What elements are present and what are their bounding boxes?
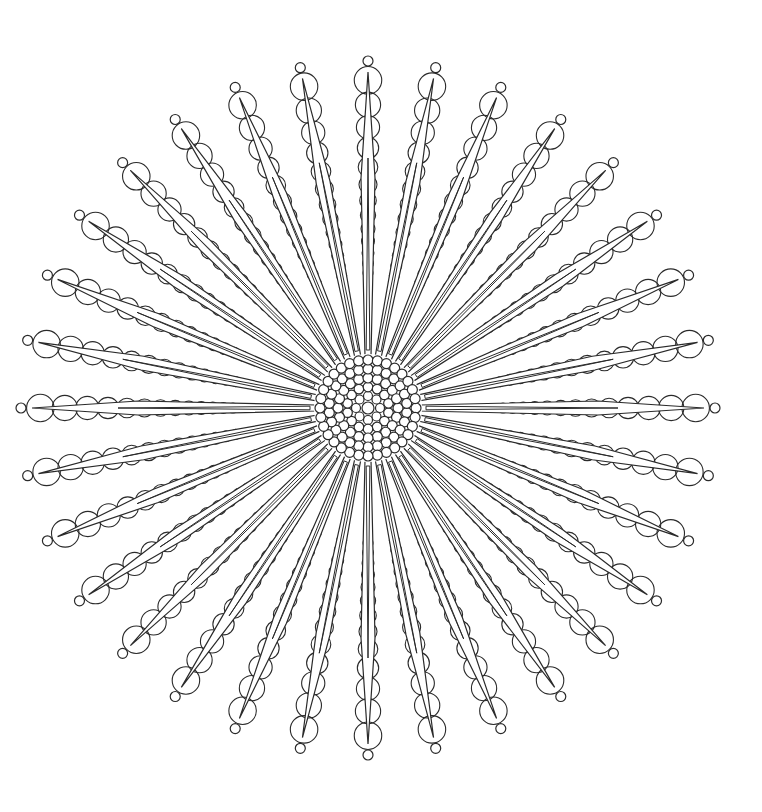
core-circle <box>352 404 361 413</box>
tip-circle <box>710 403 720 413</box>
core-circle <box>376 404 385 413</box>
core-circle <box>363 424 373 434</box>
tip-circle <box>496 82 506 92</box>
core-circle <box>364 416 373 425</box>
tip-circle <box>170 114 180 124</box>
tip-circle <box>118 158 128 168</box>
core-circle <box>372 441 382 451</box>
ray-spike <box>123 418 312 457</box>
tip-circle <box>42 536 52 546</box>
core-circle <box>354 374 364 384</box>
ray <box>420 394 720 421</box>
core-circle <box>363 382 373 392</box>
ray-spike <box>319 465 358 654</box>
ray <box>354 56 381 356</box>
tip-circle <box>23 471 33 481</box>
tip-circle <box>42 270 52 280</box>
core-circle <box>363 451 373 461</box>
core-circle <box>354 365 364 375</box>
ray-spike <box>319 163 358 352</box>
tip-circle <box>684 270 694 280</box>
core-circle <box>316 412 326 422</box>
ray-spike <box>425 359 614 398</box>
mandala-artwork <box>0 0 762 812</box>
tip-circle <box>230 724 240 734</box>
tip-circle <box>363 56 373 66</box>
tip-circle <box>23 335 33 345</box>
tip-circle <box>118 648 128 658</box>
tip-circle <box>556 114 566 124</box>
ray-spike <box>378 163 417 352</box>
tip-circle <box>170 692 180 702</box>
tip-circle <box>608 158 618 168</box>
core-circle <box>372 432 382 442</box>
mandala-core <box>314 354 422 462</box>
tip-circle <box>74 210 84 220</box>
tip-circle <box>363 750 373 760</box>
tip-circle <box>16 403 26 413</box>
ray <box>16 394 316 421</box>
tip-circle <box>684 536 694 546</box>
tip-circle <box>431 743 441 753</box>
tip-circle <box>230 82 240 92</box>
tip-circle <box>652 596 662 606</box>
tip-circle <box>74 596 84 606</box>
ray-spike <box>378 465 417 654</box>
core-circle <box>372 450 382 460</box>
tip-circle <box>431 63 441 73</box>
tip-circle <box>652 210 662 220</box>
ray-spike <box>123 359 312 398</box>
tip-circle <box>496 724 506 734</box>
core-circle <box>411 403 421 413</box>
core-circle <box>364 392 373 401</box>
core-center-circle <box>362 402 374 414</box>
tip-circle <box>703 335 713 345</box>
ray-spike <box>425 418 614 457</box>
core-circle <box>354 356 364 366</box>
tip-circle <box>556 692 566 702</box>
core-circle <box>315 403 325 413</box>
tip-circle <box>295 743 305 753</box>
core-circle <box>363 355 373 365</box>
core-circle <box>410 394 420 404</box>
tip-circle <box>608 648 618 658</box>
ray <box>354 460 381 760</box>
tip-circle <box>295 63 305 73</box>
tip-circle <box>703 471 713 481</box>
